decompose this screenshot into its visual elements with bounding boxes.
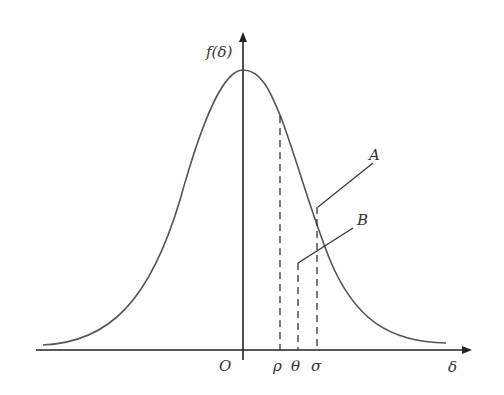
callout-a-label: A	[367, 146, 380, 164]
callout-b-label: B	[356, 211, 368, 229]
origin-label: O	[219, 357, 231, 375]
rho-label: ρ	[272, 357, 282, 375]
y-axis-label: f(δ)	[205, 43, 232, 61]
normal-distribution-diagram: f(δ) δ O ρ θ σ A B	[0, 0, 504, 395]
x-axis-label: δ	[448, 358, 457, 376]
theta-label: θ	[291, 357, 300, 375]
bell-curve	[43, 70, 446, 345]
sigma-label: σ	[311, 357, 322, 375]
leader-b	[298, 228, 353, 263]
leader-a	[318, 163, 373, 207]
